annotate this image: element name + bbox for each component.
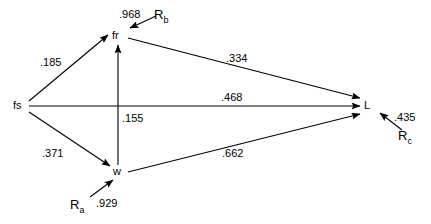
path-diagram-canvas: fs fr w L Ra Rb Rc .185 .371 .468 .334 .…	[0, 0, 431, 224]
edge-w-L	[128, 114, 360, 172]
coefficient-fr-L: .334	[226, 53, 247, 64]
edge-fs-fr	[29, 35, 108, 101]
coefficient-Rc-L: .435	[394, 112, 415, 123]
edge-Ra-w	[90, 180, 113, 197]
node-L: L	[364, 100, 370, 111]
node-w: w	[113, 166, 121, 177]
residual-a-subscript: a	[79, 205, 84, 215]
coefficient-fs-L: .468	[221, 92, 242, 103]
coefficient-Rb-fr: .968	[119, 9, 140, 20]
coefficient-fs-fr: .185	[40, 57, 61, 68]
coefficient-fs-w: .371	[42, 148, 63, 159]
node-fs: fs	[13, 100, 22, 111]
node-fr: fr	[112, 30, 119, 41]
residual-a-letter: R	[70, 197, 79, 212]
residual-b-letter: R	[154, 7, 163, 22]
residual-b-subscript: b	[163, 15, 168, 25]
edge-fr-L	[128, 38, 360, 98]
coefficient-Ra-w: .929	[96, 198, 117, 209]
residual-c-subscript: c	[407, 136, 412, 146]
residual-c-letter: R	[398, 128, 407, 143]
coefficient-w-fr: .155	[122, 113, 143, 124]
coefficient-w-L: .662	[222, 148, 243, 159]
node-residual-b: Rb	[154, 8, 168, 25]
path-arrows-svg	[0, 0, 431, 224]
node-residual-a: Ra	[70, 198, 84, 215]
node-residual-c: Rc	[398, 129, 412, 146]
